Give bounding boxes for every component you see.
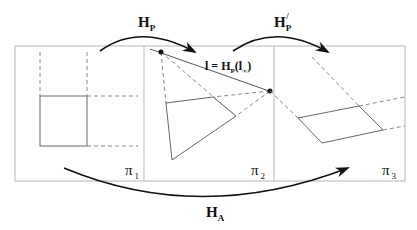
dash-line	[312, 57, 359, 106]
arrow-hp	[100, 37, 195, 52]
line-label: l = HP(l∞)	[205, 59, 251, 75]
dash-line	[213, 91, 270, 97]
dash-line	[383, 126, 405, 130]
arrow-ha	[64, 168, 348, 197]
plane-pi2: l = HP(l∞) π2	[150, 49, 273, 181]
vanishing-point-1	[159, 50, 164, 55]
ha-label: HA	[206, 204, 225, 223]
arrow-hp-prime	[233, 37, 328, 52]
diagram-canvas: π1 l = HP(l∞) π2 π3 HP HP/ HA	[0, 0, 417, 230]
square	[40, 96, 87, 146]
dash-line	[161, 52, 166, 103]
hp-prime-label: HP/	[274, 11, 292, 33]
hp-label: HP	[138, 14, 156, 33]
parallelogram	[298, 106, 383, 143]
pi2-label: π2	[251, 162, 265, 181]
plane-pi3: π3	[270, 57, 405, 181]
pi1-label: π1	[125, 162, 139, 181]
dash-line	[236, 91, 270, 116]
plane-pi1: π1	[40, 52, 139, 181]
pi3-label: π3	[382, 162, 397, 181]
dash-line	[359, 97, 405, 106]
